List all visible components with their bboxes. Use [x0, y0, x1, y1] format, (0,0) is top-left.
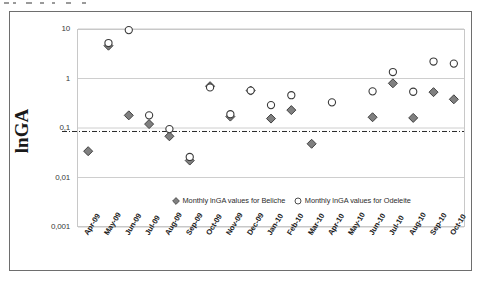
data-point-odeleite: [146, 112, 153, 119]
data-point-beliche: [449, 95, 458, 104]
y-tick-label: 10: [40, 24, 70, 33]
data-point-odeleite: [389, 68, 396, 75]
data-point-beliche: [84, 147, 93, 156]
chart-legend: Monthly lnGA values for Beliche Monthly …: [172, 196, 411, 205]
data-point-odeleite: [186, 153, 193, 160]
legend-label-beliche: Monthly lnGA values for Beliche: [183, 196, 286, 205]
y-tick-label: 1: [40, 74, 70, 83]
data-point-beliche: [145, 120, 154, 129]
filled-diamond-icon: [172, 197, 180, 205]
chart-canvas: [0, 0, 489, 283]
chart-figure: lnGA 1010,10,010,001 Apr-09May-09Jun-09J…: [0, 0, 489, 283]
data-point-odeleite: [125, 27, 132, 34]
data-point-beliche: [429, 88, 438, 97]
open-circle-icon: [294, 197, 302, 205]
data-points-group: [84, 27, 459, 166]
legend-label-odeleite: Monthly lnGA values for Odeleite: [305, 196, 411, 205]
data-point-odeleite: [267, 102, 274, 109]
data-point-odeleite: [105, 39, 112, 46]
data-point-odeleite: [288, 92, 295, 99]
data-point-beliche: [307, 139, 316, 148]
y-tick-label: 0,01: [40, 173, 70, 182]
data-point-odeleite: [369, 88, 376, 95]
data-point-beliche: [388, 79, 397, 88]
data-point-beliche: [287, 106, 296, 115]
data-point-odeleite: [450, 60, 457, 67]
data-point-odeleite: [328, 99, 335, 106]
data-point-beliche: [409, 113, 418, 122]
data-point-odeleite: [430, 58, 437, 65]
y-tick-label: 0,001: [40, 222, 70, 231]
data-point-odeleite: [166, 126, 173, 133]
data-point-odeleite: [206, 84, 213, 91]
y-tick-label: 0,1: [40, 123, 70, 132]
legend-entry-beliche: Monthly lnGA values for Beliche: [172, 196, 285, 205]
data-point-beliche: [124, 111, 133, 120]
data-point-odeleite: [410, 88, 417, 95]
data-point-odeleite: [247, 87, 254, 94]
data-point-beliche: [267, 114, 276, 123]
data-point-odeleite: [227, 111, 234, 118]
data-point-beliche: [368, 113, 377, 122]
legend-entry-odeleite: Monthly lnGA values for Odeleite: [294, 196, 411, 205]
